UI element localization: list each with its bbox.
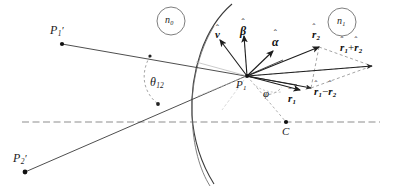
point-label-P2prime: P2′ <box>13 152 27 166</box>
point-dot-C <box>284 120 288 124</box>
vector-label-r1-plus-r2: ˆr1+ˆr2 <box>340 42 362 55</box>
point-label-P1prime: P1′ <box>50 24 64 38</box>
vector-r1 <box>247 76 300 90</box>
vector-alpha <box>247 51 273 76</box>
vector-label-alpha: ˆα <box>272 36 279 48</box>
vector-label-r1: ˆr1 <box>288 93 296 106</box>
angle-marker-theta12-bottom <box>156 102 160 106</box>
vector-label-v: ˆv <box>215 29 220 40</box>
angle-label-phi: φ <box>263 88 269 99</box>
vector-label-r1-minus-r2: ˆr1−ˆr2 <box>314 86 336 99</box>
media-label-n1: n1 <box>337 16 345 27</box>
vector-r2 <box>247 47 319 76</box>
figure-canvas: P1′ P2′ P1 C n0 n1 θ12 φ ˆv ˆβ ˆα ˆr2 ˆr… <box>0 0 398 188</box>
vector-label-r2: ˆr2 <box>312 29 320 42</box>
parallelogram-edge-r1-to-sum <box>311 66 372 88</box>
point-dot-P2prime <box>23 170 28 175</box>
vector-beta <box>244 36 247 76</box>
media-label-n0: n0 <box>165 15 173 26</box>
point-dot-P1prime <box>60 42 64 46</box>
vector-label-beta: ˆβ <box>240 25 246 37</box>
radius-line-P1-to-C <box>247 76 286 122</box>
point-dot-P1 <box>245 74 249 78</box>
point-label-C: C <box>282 126 289 137</box>
point-label-P1: P1 <box>236 79 246 92</box>
angle-marker-theta12-top <box>148 54 151 57</box>
angle-label-theta12: θ12 <box>150 76 164 90</box>
vector-v <box>220 40 247 76</box>
